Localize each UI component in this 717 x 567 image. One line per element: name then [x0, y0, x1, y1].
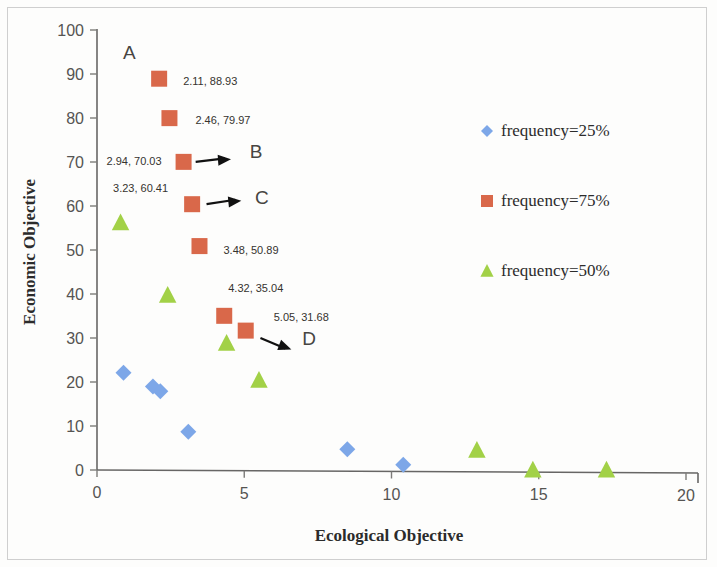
data-point-diamond [395, 457, 411, 473]
data-point-diamond [339, 441, 355, 457]
y-tick-label: 40 [66, 286, 84, 303]
y-tick-label: 20 [66, 374, 84, 391]
y-tick-label: 90 [66, 66, 84, 83]
legend-label: frequency=25% [501, 121, 610, 140]
data-point-triangle [218, 334, 235, 351]
y-tick-label: 10 [66, 418, 84, 435]
data-point-square [216, 308, 232, 324]
legend-label: frequency=50% [501, 261, 610, 280]
legend-group: frequency=25%frequency=75%frequency=50% [480, 121, 609, 280]
data-point-square [184, 196, 200, 212]
data-point-label: 3.48, 50.89 [223, 244, 278, 256]
data-point-label: 4.32, 35.04 [228, 282, 283, 294]
legend-triangle-marker [480, 264, 493, 277]
data-point-triangle [159, 286, 176, 303]
data-point-label: 5.05, 31.68 [274, 311, 329, 323]
y-tick-label: 100 [57, 22, 84, 39]
data-point-diamond [180, 424, 196, 440]
data-point-diamond [116, 365, 132, 381]
data-point-triangle [524, 461, 541, 478]
y-tick-label: 80 [66, 110, 84, 127]
x-tick-label: 20 [677, 487, 695, 504]
y-tick-label: 0 [75, 462, 84, 479]
y-tick-label: 70 [66, 154, 84, 171]
data-point-square [191, 238, 207, 254]
data-point-labels-group: 2.11, 88.932.46, 79.972.94, 70.033.23, 6… [107, 75, 329, 323]
data-point-square [176, 154, 192, 170]
y-tick-label: 60 [66, 198, 84, 215]
callout-letter-b: B [250, 141, 263, 162]
y-tick-label: 30 [66, 330, 84, 347]
x-tick-label: 0 [93, 484, 102, 501]
callout-arrow-head [277, 340, 291, 350]
legend-diamond-marker [481, 125, 493, 137]
data-point-label: 3.23, 60.41 [113, 182, 168, 194]
y-axis-title: Economic Objective [20, 179, 39, 325]
y-tick-label: 50 [66, 242, 84, 259]
x-tick-label: 10 [383, 486, 401, 503]
data-point-label: 2.11, 88.93 [183, 75, 237, 87]
callout-arrow-head [228, 197, 241, 208]
callout-letter-d: D [302, 328, 316, 349]
plot-canvas: 010203040506070809010005101520 2.11, 88.… [0, 0, 717, 567]
data-point-triangle [250, 371, 267, 388]
legend-label: frequency=75% [501, 191, 610, 210]
data-point-label: 2.46, 79.97 [195, 114, 250, 126]
callout-letters-group: ABCD [123, 42, 316, 349]
data-point-square [151, 71, 167, 87]
legend-square-marker [481, 195, 493, 207]
x-tick-label: 15 [530, 486, 548, 503]
x-axis-title: Ecological Objective [315, 526, 464, 545]
data-point-triangle [468, 441, 485, 458]
data-point-label: 2.94, 70.03 [107, 155, 162, 167]
callout-arrow-head [218, 155, 231, 166]
data-point-square [161, 110, 177, 126]
data-point-triangle [598, 461, 615, 478]
scatter-chart-figure: 010203040506070809010005101520 2.11, 88.… [0, 0, 717, 567]
x-tick-label: 5 [240, 485, 249, 502]
data-point-triangle [112, 214, 129, 231]
callout-letter-a: A [123, 42, 136, 63]
callout-letter-c: C [255, 187, 269, 208]
data-point-square [238, 323, 254, 339]
